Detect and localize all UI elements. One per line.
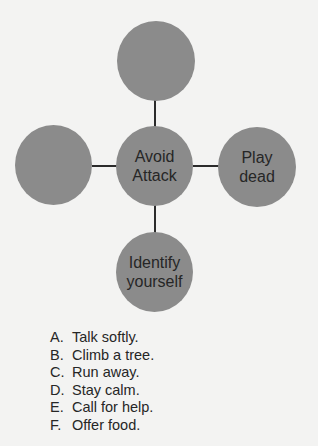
option-b: B.Climb a tree. bbox=[50, 347, 154, 365]
web-diagram: Avoid Attack Play dead Identify yourself… bbox=[0, 0, 318, 446]
option-a: A.Talk softly. bbox=[50, 329, 154, 347]
node-bottom-line-1: Identify bbox=[126, 253, 182, 272]
node-right-line-1: Play bbox=[239, 148, 275, 167]
connector-bottom bbox=[154, 205, 156, 233]
option-c: C.Run away. bbox=[50, 364, 154, 382]
option-f: F.Offer food. bbox=[50, 417, 154, 435]
connector-top bbox=[154, 100, 156, 127]
node-bottom-identify-yourself: Identify yourself bbox=[116, 232, 193, 312]
node-center-avoid-attack: Avoid Attack bbox=[116, 126, 193, 206]
node-center-line-2: Attack bbox=[132, 166, 176, 185]
node-right-play-dead: Play dead bbox=[218, 127, 296, 207]
node-right-line-2: dead bbox=[239, 167, 275, 186]
connector-right bbox=[193, 165, 219, 167]
connector-left bbox=[92, 165, 117, 167]
node-bottom-line-2: yourself bbox=[126, 272, 182, 291]
option-d: D.Stay calm. bbox=[50, 382, 154, 400]
node-center-line-1: Avoid bbox=[132, 147, 176, 166]
node-left-empty bbox=[15, 125, 92, 205]
option-e: E.Call for help. bbox=[50, 399, 154, 417]
node-top-empty bbox=[117, 21, 195, 101]
answer-options-list: A.Talk softly. B.Climb a tree. C.Run awa… bbox=[50, 329, 154, 435]
